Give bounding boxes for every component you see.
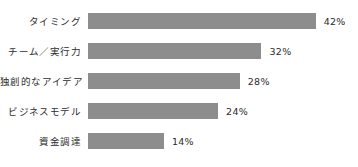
category-label: 資金調達 xyxy=(0,136,88,147)
bar xyxy=(88,103,218,119)
bar-row: 独創的なアイデア 28% xyxy=(0,73,358,89)
category-label: チーム／実行力 xyxy=(0,46,88,57)
value-label: 32% xyxy=(261,46,291,57)
category-label: ビジネスモデル xyxy=(0,106,88,117)
bar-track: 14% xyxy=(88,133,358,149)
category-label: タイミング xyxy=(0,16,88,27)
bar-track: 24% xyxy=(88,103,358,119)
bar xyxy=(88,133,164,149)
bar xyxy=(88,73,240,89)
value-label: 14% xyxy=(164,136,194,147)
value-label: 28% xyxy=(240,76,270,87)
bar-row: タイミング 42% xyxy=(0,13,358,29)
value-label: 24% xyxy=(218,106,248,117)
bar-track: 28% xyxy=(88,73,358,89)
bar xyxy=(88,13,316,29)
bar-track: 32% xyxy=(88,43,358,59)
bar xyxy=(88,43,261,59)
bar-track: 42% xyxy=(88,13,358,29)
bar-row: ビジネスモデル 24% xyxy=(0,103,358,119)
horizontal-bar-chart: タイミング 42% チーム／実行力 32% 独創的なアイデア 28% ビジネスモ… xyxy=(0,0,358,167)
value-label: 42% xyxy=(316,16,346,27)
category-label: 独創的なアイデア xyxy=(0,76,88,87)
bar-row: 資金調達 14% xyxy=(0,133,358,149)
bar-row: チーム／実行力 32% xyxy=(0,43,358,59)
